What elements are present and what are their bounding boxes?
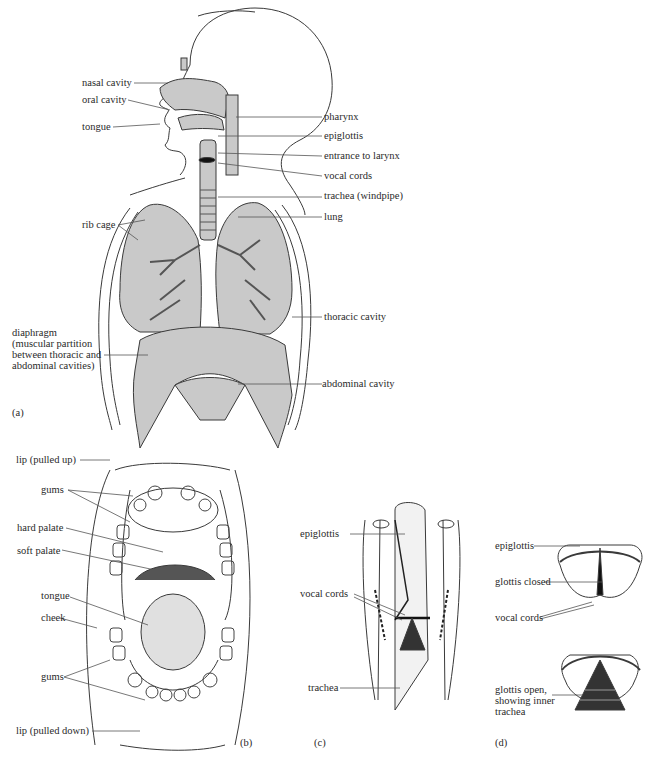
label-trachea-c: trachea	[308, 682, 338, 694]
label-abdominal-cavity: abdominal cavity	[322, 378, 395, 390]
label-nasal-cavity: nasal cavity	[82, 77, 132, 89]
label-diaphragm-desc-3: abdominal cavities)	[12, 360, 95, 372]
label-epiglottis-d: epiglottis	[495, 540, 534, 552]
panel-tag-c: (c)	[314, 737, 326, 749]
label-entrance-to-larynx: entrance to larynx	[324, 150, 400, 162]
label-tongue-b: tongue	[41, 590, 70, 602]
leader-lines-b	[60, 460, 163, 731]
label-hard-palate: hard palate	[17, 522, 63, 534]
label-vocal-cords-d: vocal cords	[495, 612, 543, 624]
glottis-open-illustration	[562, 655, 640, 710]
label-thoracic-cavity: thoracic cavity	[324, 311, 386, 323]
label-tongue-a: tongue	[82, 121, 111, 133]
leader-lines-d	[534, 546, 602, 695]
label-vocal-cords-c: vocal cords	[300, 588, 348, 600]
label-epiglottis-c: epiglottis	[300, 528, 339, 540]
label-soft-palate: soft palate	[17, 545, 60, 557]
label-lung: lung	[324, 211, 343, 223]
panel-tag-a: (a)	[12, 407, 24, 419]
label-glottis-closed: glottis closed	[495, 576, 551, 588]
label-lip-pulled-down: lip (pulled down)	[16, 725, 89, 737]
glottis-closed-illustration	[558, 545, 642, 597]
label-trachea-windpipe: trachea (windpipe)	[324, 190, 403, 202]
label-epiglottis-a: epiglottis	[324, 130, 363, 142]
label-lip-pulled-up: lip (pulled up)	[16, 454, 76, 466]
label-cheek: cheek	[41, 612, 65, 624]
larynx-trachea	[199, 140, 216, 240]
label-rib-cage: rib cage	[82, 219, 116, 231]
label-gums-lower: gums	[41, 671, 64, 683]
label-glottis-open-trachea: trachea	[495, 706, 525, 718]
panel-tag-d: (d)	[495, 737, 507, 749]
diaphragm	[133, 327, 292, 448]
label-gums-upper: gums	[41, 484, 64, 496]
label-pharynx: pharynx	[324, 111, 358, 123]
label-oral-cavity: oral cavity	[82, 94, 127, 106]
label-vocal-cords-a: vocal cords	[324, 170, 372, 182]
panel-tag-b: (b)	[240, 737, 252, 749]
mouth-illustration	[87, 463, 250, 750]
